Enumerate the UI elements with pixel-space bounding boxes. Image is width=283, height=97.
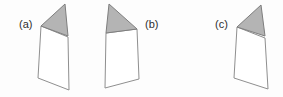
panel-c: (c) bbox=[215, 5, 268, 89]
panel-b-page-shape bbox=[105, 29, 139, 88]
panel-b-fold-flap bbox=[106, 4, 137, 33]
panel-a-label: (a) bbox=[19, 18, 32, 30]
panel-b: (b) bbox=[105, 4, 158, 88]
panel-c-label: (c) bbox=[215, 18, 228, 30]
panel-c-page-shape bbox=[234, 27, 268, 89]
figure-canvas: (a) (b) (c) bbox=[0, 0, 283, 97]
panel-b-label: (b) bbox=[145, 18, 158, 30]
panel-a-page-shape bbox=[38, 26, 69, 90]
panel-a: (a) bbox=[19, 4, 69, 90]
folded-card-figure: (a) (b) (c) bbox=[0, 0, 283, 97]
